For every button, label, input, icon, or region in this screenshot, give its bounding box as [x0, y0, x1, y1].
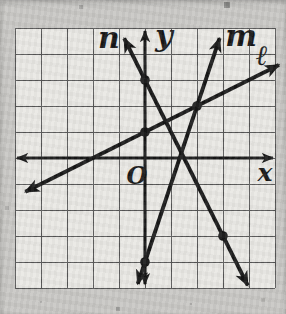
scanned-page: nymℓOx	[0, 0, 286, 314]
graph-canvas: nymℓOx	[0, 0, 286, 314]
marked-point	[140, 127, 150, 137]
marked-point	[218, 231, 228, 241]
label-x-axis: x	[257, 158, 274, 187]
marked-point	[192, 101, 202, 111]
marked-point	[140, 75, 150, 85]
label-line-m: m	[225, 18, 257, 53]
label-y-axis: y	[154, 18, 175, 53]
label-origin: O	[127, 161, 148, 190]
label-line-l: ℓ	[255, 39, 268, 72]
label-line-n: n	[98, 20, 120, 55]
marked-point	[140, 257, 150, 267]
